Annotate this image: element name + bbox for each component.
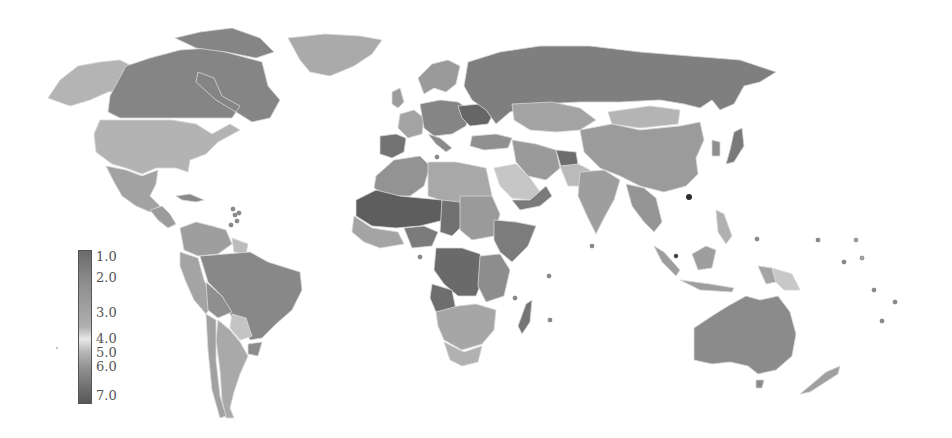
region-iberia: [380, 134, 406, 158]
region-greenland: [288, 34, 382, 76]
region-hong-kong-dot: [686, 194, 692, 200]
region-new-zealand: [800, 366, 840, 394]
region-papua-new-guinea: [772, 268, 800, 290]
region-borneo: [692, 246, 716, 270]
region-colombia-venezuela: [180, 222, 232, 256]
region-japan: [726, 128, 744, 164]
region-east-africa: [478, 254, 510, 302]
region-madagascar: [518, 300, 532, 334]
region-india: [578, 170, 620, 234]
region-canada: [108, 48, 280, 122]
region-tasmania: [756, 380, 764, 388]
region-nigeria: [404, 226, 438, 248]
legend-tick-3: 3.0: [96, 306, 117, 319]
legend-color-bar: [78, 250, 92, 404]
region-balkans-italy: [428, 134, 452, 152]
region-north-africa: [374, 156, 430, 196]
region-uk: [392, 88, 404, 108]
region-uruguay: [248, 342, 262, 356]
legend-tick-4: 4.0: [96, 332, 117, 345]
legend-tick-6: 6.0: [96, 360, 117, 373]
stray-dot: [56, 347, 58, 349]
legend-tick-7: 7.0: [96, 389, 117, 402]
region-kazakhstan: [512, 102, 596, 132]
island-dots: [229, 155, 897, 323]
region-korea: [712, 140, 720, 156]
region-cuba: [176, 194, 204, 202]
region-java: [680, 280, 734, 292]
region-france: [398, 110, 424, 138]
legend-tick-5: 5.0: [96, 346, 117, 359]
region-chad: [440, 200, 462, 236]
legend-tick-1: 1.0: [96, 250, 117, 263]
region-mexico: [106, 166, 160, 212]
world-map: [0, 0, 952, 438]
region-australia: [694, 296, 796, 374]
region-guianas: [232, 238, 248, 254]
region-southeast-asia: [626, 184, 662, 232]
region-mongolia: [608, 106, 680, 128]
region-scandinavia: [418, 60, 460, 94]
region-usa: [94, 120, 240, 174]
legend-tick-2: 2.0: [96, 271, 117, 284]
region-central-america: [150, 206, 176, 228]
region-sumatra: [654, 246, 680, 276]
region-philippines: [716, 210, 732, 244]
region-turkey: [470, 134, 512, 150]
